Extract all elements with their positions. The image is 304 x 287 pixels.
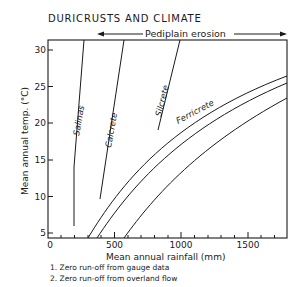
note-1: 1. Zero run-off from gauge data bbox=[50, 263, 169, 272]
x-tick-500: 500 bbox=[106, 240, 123, 250]
y-tick-15: 15 bbox=[35, 155, 46, 165]
label-calcrete: Calcrete bbox=[103, 112, 119, 149]
pediplain-erosion-arrow: Pediplain erosion bbox=[97, 28, 287, 39]
plot-frame bbox=[48, 40, 287, 238]
label-ferricrete: Ferricrete bbox=[174, 97, 215, 125]
label-salinas: Salinas bbox=[71, 104, 86, 136]
chart-figure: DURICRUSTS AND CLIMATE Pediplain erosion… bbox=[0, 0, 304, 287]
x-axis-label: Mean annual rainfall (mm) bbox=[106, 252, 225, 262]
y-axis bbox=[48, 50, 53, 233]
x-axis bbox=[61, 232, 275, 238]
line-ferricrete-3 bbox=[124, 98, 287, 238]
pediplain-erosion-label: Pediplain erosion bbox=[145, 28, 226, 39]
y-tick-25: 25 bbox=[35, 82, 46, 92]
note-2: 2. Zero run-off from overland flow bbox=[50, 274, 177, 283]
y-tick-5: 5 bbox=[40, 228, 46, 238]
x-tick-1000: 1000 bbox=[170, 240, 193, 250]
line-ferricrete-1 bbox=[88, 76, 287, 238]
label-silcrete: Silcrete bbox=[153, 84, 170, 118]
x-tick-1500: 1500 bbox=[237, 240, 260, 250]
line-ferricrete-2 bbox=[97, 83, 287, 238]
y-tick-10: 10 bbox=[35, 192, 47, 202]
y-tick-20: 20 bbox=[35, 118, 47, 128]
y-axis-label: Mean annual temp. (°C) bbox=[20, 87, 30, 195]
chart-title: DURICRUSTS AND CLIMATE bbox=[48, 13, 202, 24]
x-tick-0: 0 bbox=[47, 240, 53, 250]
y-tick-30: 30 bbox=[35, 45, 47, 55]
